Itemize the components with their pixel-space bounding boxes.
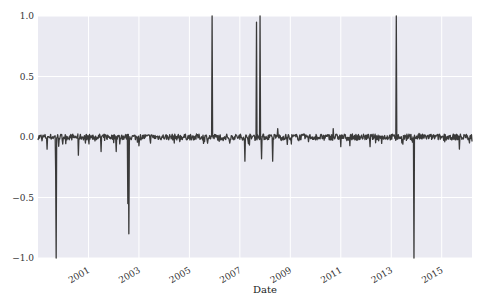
x-axis: 20012003200520072009201120132015	[67, 265, 445, 285]
y-tick-label: −0.5	[12, 193, 34, 203]
y-tick-label: 1.0	[20, 11, 35, 21]
y-tick-label: 0.0	[20, 132, 35, 142]
x-tick-label: 2015	[420, 265, 445, 285]
x-tick-label: 2003	[117, 265, 142, 285]
y-axis: 1.00.50.0−0.5−1.0	[12, 11, 34, 263]
x-tick-label: 2009	[268, 265, 293, 285]
x-tick-label: 2007	[218, 265, 243, 285]
x-tick-label: 2011	[319, 265, 344, 285]
x-tick-label: 2005	[168, 265, 193, 285]
x-tick-label: 2001	[67, 265, 92, 285]
y-tick-label: 0.5	[20, 72, 35, 82]
y-tick-label: −1.0	[12, 253, 34, 263]
x-axis-label: Date	[253, 284, 277, 295]
chart: 1.00.50.0−0.5−1.0 2001200320052007200920…	[0, 0, 481, 300]
x-tick-label: 2013	[369, 265, 394, 285]
